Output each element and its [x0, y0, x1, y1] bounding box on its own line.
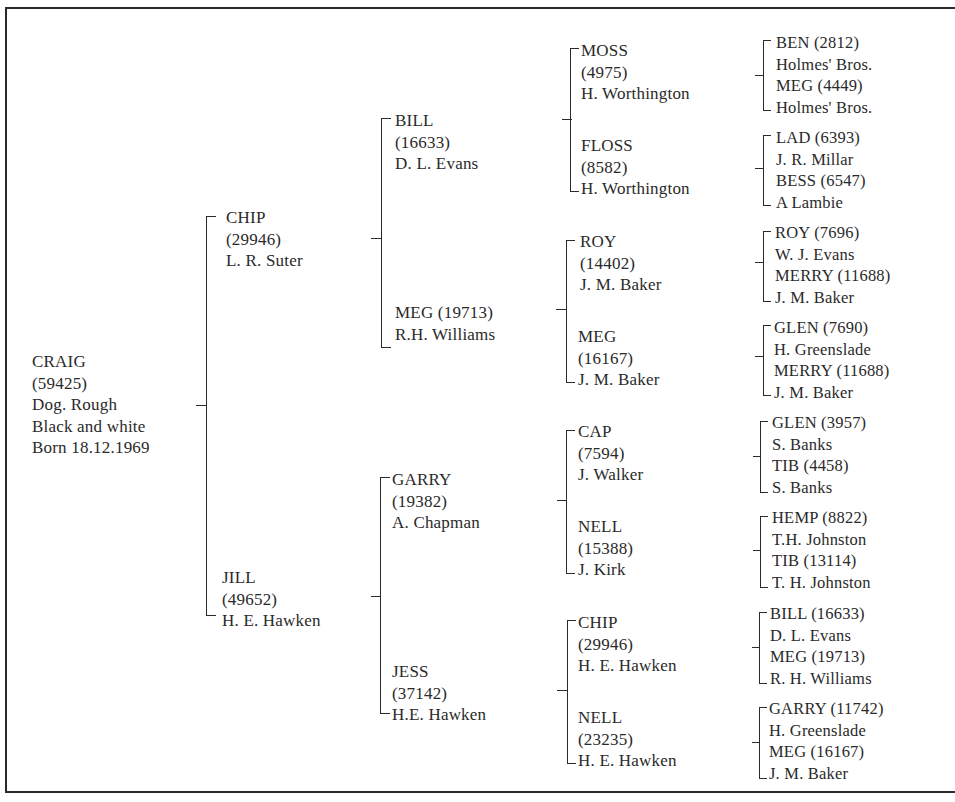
dog-name: CHIP	[226, 207, 303, 229]
bracket-top-tick	[760, 421, 768, 422]
subject-born: Born 18.12.1969	[32, 437, 150, 459]
dam-name-reg: MEG (19713)	[770, 646, 872, 668]
dog-reg: (16633)	[395, 132, 478, 154]
great-grandparent-6: NELL (15388) J. Kirk	[578, 516, 633, 581]
bracket-top-tick	[760, 516, 768, 517]
gg-bracket-1	[570, 48, 571, 192]
great-grandparent-4: MEG (16167) J. M. Baker	[578, 326, 660, 391]
dam-breeder: T. H. Johnston	[772, 572, 871, 594]
bracket-top-tick	[566, 240, 575, 241]
bracket-top-tick	[759, 707, 767, 708]
sire-breeder: S. Banks	[772, 434, 866, 456]
dog-breeder: H. E. Hawken	[578, 655, 677, 677]
bracket-top-tick	[763, 135, 771, 136]
grandparent-3: GARRY (19382) A. Chapman	[392, 469, 480, 534]
dog-name: BILL	[395, 110, 478, 132]
parent-dam: JILL (49652) H. E. Hawken	[222, 567, 321, 632]
bracket-bottom-tick	[763, 205, 771, 206]
ggg-pair-7: BILL (16633) D. L. Evans MEG (19713) R. …	[770, 603, 872, 689]
connector-tick	[755, 356, 763, 357]
ggg-bracket-5	[760, 421, 761, 493]
dog-name: MEG	[578, 326, 660, 348]
bracket-bottom-tick	[380, 713, 390, 714]
bracket-top-tick	[763, 40, 771, 41]
ggg-bracket-3	[763, 231, 764, 302]
dam-name-reg: BESS (6547)	[776, 170, 866, 192]
grandparents-bracket-2	[380, 477, 381, 714]
sire-breeder: H. Greenslade	[769, 720, 884, 742]
ggg-bracket-2	[763, 135, 764, 206]
dam-breeder: A Lambie	[776, 192, 866, 214]
bracket-bottom-tick	[759, 778, 767, 779]
connector-tick	[755, 168, 763, 169]
ggg-pair-1: BEN (2812) Holmes' Bros. MEG (4449) Holm…	[776, 32, 872, 118]
dog-reg: (37142)	[392, 683, 486, 705]
dog-name: ROY	[580, 231, 662, 253]
sire-name-reg: BEN (2812)	[776, 32, 872, 54]
sire-name-reg: GLEN (3957)	[772, 412, 866, 434]
dog-breeder: J. M. Baker	[580, 274, 662, 296]
subject-name: CRAIG	[32, 351, 150, 373]
dog-name: NELL	[578, 707, 677, 729]
dog-reg: (8582)	[581, 157, 690, 179]
bracket-bottom-tick	[760, 587, 768, 588]
great-grandparent-7: CHIP (29946) H. E. Hawken	[578, 612, 677, 677]
dam-name-reg: TIB (4458)	[772, 455, 866, 477]
ggg-pair-2: LAD (6393) J. R. Millar BESS (6547) A La…	[776, 127, 866, 213]
ggg-pair-3: ROY (7696) W. J. Evans MERRY (11688) J. …	[775, 222, 891, 308]
dam-name-reg: MERRY (11688)	[774, 360, 890, 382]
ggg-bracket-7	[759, 612, 760, 684]
dam-breeder: J. M. Baker	[774, 382, 890, 404]
subject-sex-coat: Dog. Rough	[32, 394, 150, 416]
sire-breeder: Holmes' Bros.	[776, 54, 872, 76]
sire-name-reg: ROY (7696)	[775, 222, 891, 244]
ggg-bracket-4	[763, 325, 764, 396]
bracket-bottom-tick	[760, 492, 768, 493]
sire-breeder: H. Greenslade	[774, 339, 890, 361]
great-grandparent-3: ROY (14402) J. M. Baker	[580, 231, 662, 296]
connector-tick	[371, 238, 381, 239]
dog-reg: (23235)	[578, 729, 677, 751]
dam-breeder: S. Banks	[772, 477, 866, 499]
ggg-bracket-8	[759, 707, 760, 779]
connector-tick	[556, 309, 566, 310]
dam-name-reg: MEG (16167)	[769, 741, 884, 763]
dog-breeder: H. Worthington	[581, 83, 690, 105]
sire-breeder: J. R. Millar	[776, 149, 866, 171]
ggg-pair-4: GLEN (7690) H. Greenslade MERRY (11688) …	[774, 317, 890, 403]
dam-breeder: J. M. Baker	[775, 287, 891, 309]
dog-breeder: H.E. Hawken	[392, 704, 486, 726]
dog-name: MOSS	[581, 40, 690, 62]
dog-breeder: D. L. Evans	[395, 153, 478, 175]
dog-reg: (29946)	[578, 634, 677, 656]
dog-breeder: J. M. Baker	[578, 369, 660, 391]
dog-reg: (19382)	[392, 491, 480, 513]
dog-name: FLOSS	[581, 135, 690, 157]
dog-reg: (49652)	[222, 589, 321, 611]
gg-bracket-4	[567, 620, 568, 764]
connector-tick	[196, 405, 206, 406]
bracket-bottom-tick	[206, 615, 216, 616]
sire-name-reg: BILL (16633)	[770, 603, 872, 625]
dog-reg: (29946)	[226, 229, 303, 251]
dog-breeder: H. Worthington	[581, 178, 690, 200]
great-grandparent-8: NELL (23235) H. E. Hawken	[578, 707, 677, 772]
grandparent-1: BILL (16633) D. L. Evans	[395, 110, 478, 175]
gg-bracket-3	[566, 430, 567, 574]
bracket-bottom-tick	[763, 301, 771, 302]
ggg-bracket-1	[763, 40, 764, 111]
dog-reg: (14402)	[580, 253, 662, 275]
dam-breeder: Holmes' Bros.	[776, 97, 872, 119]
grandparents-bracket-1	[381, 118, 382, 348]
dog-name: JILL	[222, 567, 321, 589]
dog-reg: (15388)	[578, 538, 633, 560]
connector-tick	[557, 690, 567, 691]
bracket-top-tick	[380, 477, 390, 478]
ggg-pair-6: HEMP (8822) T.H. Johnston TIB (13114) T.…	[772, 507, 871, 593]
ggg-bracket-6	[760, 516, 761, 588]
bracket-bottom-tick	[570, 191, 579, 192]
bracket-top-tick	[759, 612, 767, 613]
bracket-bottom-tick	[567, 763, 576, 764]
sire-breeder: W. J. Evans	[775, 244, 891, 266]
subject-block: CRAIG (59425) Dog. Rough Black and white…	[32, 351, 150, 459]
